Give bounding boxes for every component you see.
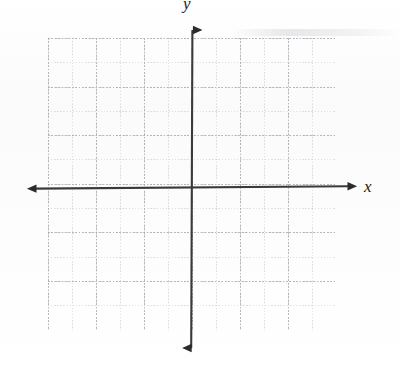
- x-axis-label: x: [364, 178, 372, 195]
- axes: [0, 0, 400, 375]
- coordinate-plane-figure: y x: [0, 0, 400, 375]
- y-axis-label: y: [183, 0, 191, 12]
- y-axis-line: [191, 30, 192, 348]
